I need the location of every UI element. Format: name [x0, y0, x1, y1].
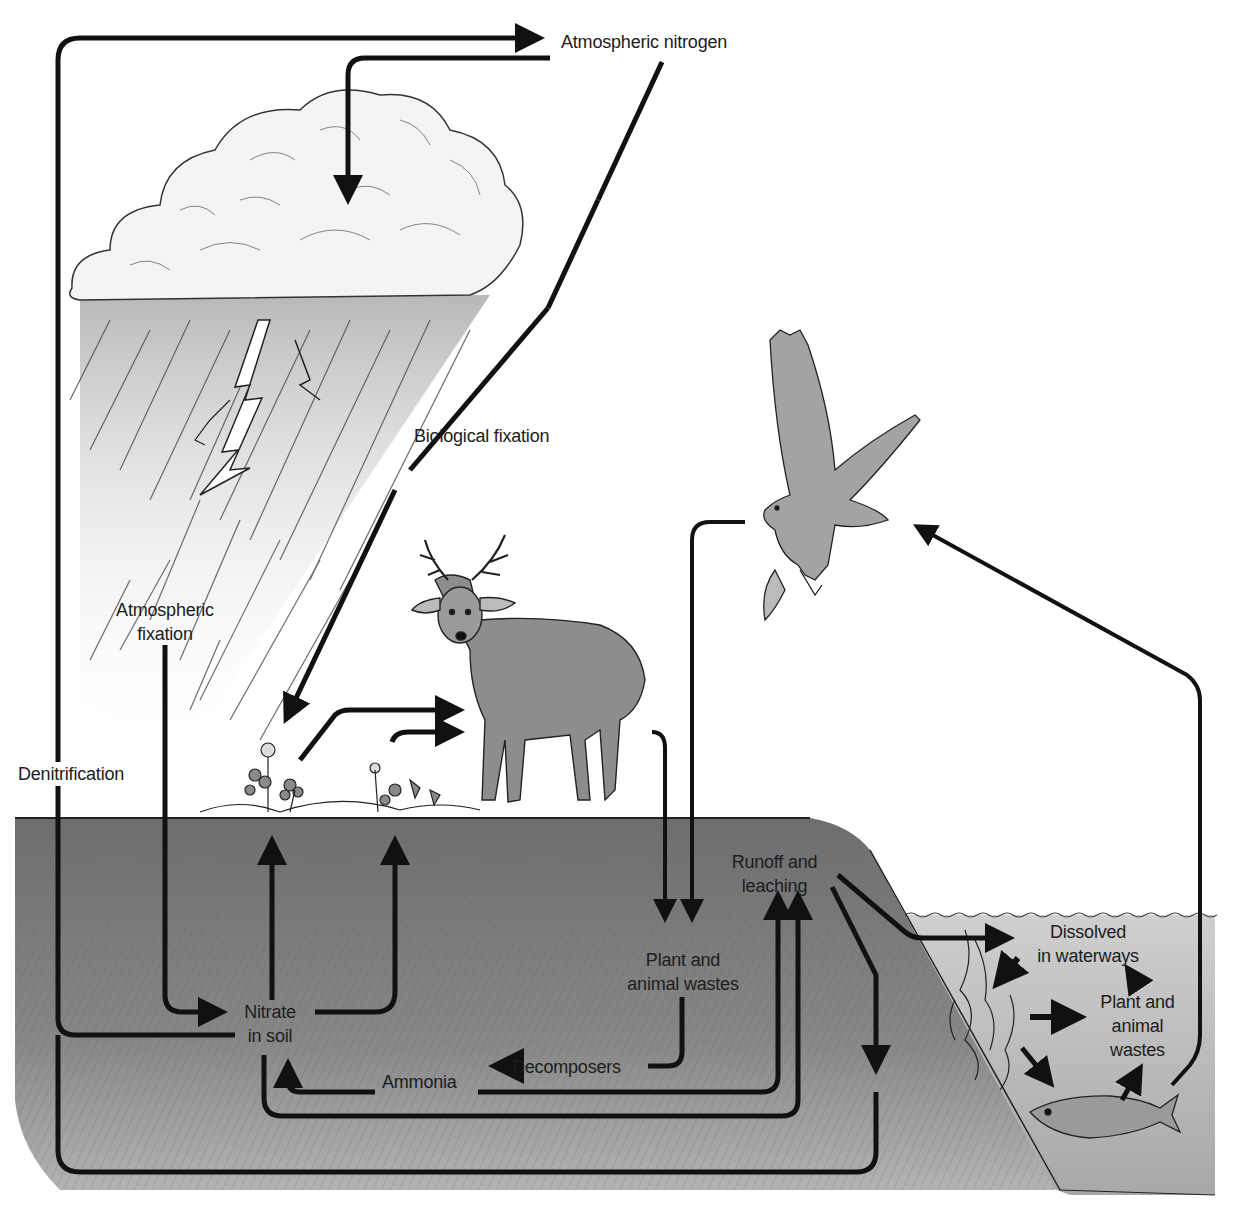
label-atmospheric-nitrogen: Atmospheric nitrogen [561, 30, 727, 54]
label-dissolved-in-waterways: Dissolved in waterways [1018, 920, 1158, 968]
label-runoff-line1: Runoff and [712, 850, 837, 874]
label-atmospheric-fixation: Atmospheric fixation [95, 598, 235, 646]
label-runoff-line2: leaching [712, 874, 837, 898]
arrow-plants-to-deer-1 [300, 710, 455, 760]
label-dissolved-line2: in waterways [1018, 944, 1158, 968]
label-aquatic-wastes-line1: Plant and [1085, 990, 1190, 1014]
label-atmospheric-fixation-line2: fixation [95, 622, 235, 646]
cloud-icon [70, 90, 523, 300]
label-plant-animal-wastes-line1: Plant and [598, 948, 768, 972]
rain-icon [70, 295, 490, 760]
nitrogen-cycle-diagram: Atmospheric nitrogen Biological fixation… [0, 0, 1236, 1209]
label-denitrification: Denitrification [16, 762, 126, 786]
label-aquatic-wastes-line2: animal [1085, 1014, 1190, 1038]
label-nitrate-in-soil: Nitrate in soil [230, 1000, 310, 1048]
arrow-biological-fixation-top [598, 62, 662, 200]
clover-plants-icon [200, 743, 480, 812]
label-dissolved-line1: Dissolved [1018, 920, 1158, 944]
label-nitrate-line2: in soil [230, 1024, 310, 1048]
label-aquatic-wastes: Plant and animal wastes [1085, 990, 1190, 1062]
label-biological-fixation: Biological fixation [414, 424, 549, 448]
label-runoff-leaching: Runoff and leaching [712, 850, 837, 898]
label-nitrate-line1: Nitrate [230, 1000, 310, 1024]
osprey-with-fish-icon [764, 330, 920, 620]
label-ammonia: Ammonia [382, 1070, 457, 1094]
label-plant-animal-wastes: Plant and animal wastes [598, 948, 768, 996]
label-aquatic-wastes-line3: wastes [1085, 1038, 1190, 1062]
label-decomposers: Decomposers [512, 1055, 621, 1079]
arrow-plants-to-deer-2 [392, 732, 455, 742]
label-plant-animal-wastes-line2: animal wastes [598, 972, 768, 996]
label-atmospheric-fixation-line1: Atmospheric [95, 598, 235, 622]
deer-icon [412, 535, 645, 802]
